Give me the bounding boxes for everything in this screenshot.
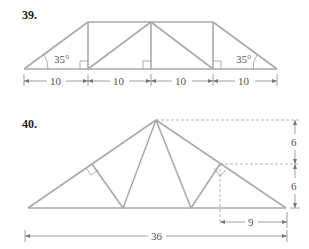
segment-3-39: 10 <box>175 75 187 87</box>
segment-2-39: 10 <box>113 75 125 87</box>
offset-40: 9 <box>248 216 254 228</box>
truss-diagrams: 35° 35° 10 10 10 10 <box>0 0 309 249</box>
height-top-40: 6 <box>291 136 297 148</box>
span-40: 36 <box>151 230 163 242</box>
angle-left-39: 35° <box>54 53 69 65</box>
segment-4-39: 10 <box>238 75 250 87</box>
right-angle-marks-40 <box>86 168 226 176</box>
angle-right-39: 35° <box>236 53 251 65</box>
segment-1-39: 10 <box>50 75 62 87</box>
height-bottom-40: 6 <box>291 180 297 192</box>
